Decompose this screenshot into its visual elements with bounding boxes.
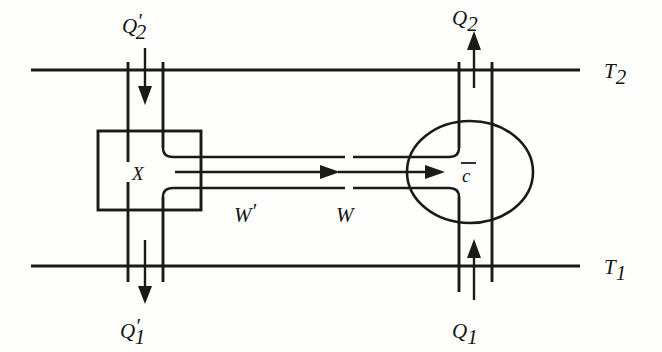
label-work-prime: W′ xyxy=(234,199,257,227)
label-t1-subscript: 1 xyxy=(616,261,627,285)
heat-arrow-q2-prime xyxy=(138,48,152,105)
diagram-canvas: T2 T1 Q′2 Q′1 Q2 xyxy=(0,0,662,352)
left-elbow-upper xyxy=(163,148,345,157)
svg-text:W′: W′ xyxy=(234,199,257,227)
svg-text:T2: T2 xyxy=(604,59,627,89)
label-q1-prime: Q′1 xyxy=(120,314,145,349)
label-device-x: X xyxy=(131,163,145,184)
heat-arrow-q2 xyxy=(467,31,481,88)
label-work-prime-mark: ′ xyxy=(252,199,257,223)
heat-arrow-q1-prime xyxy=(138,240,152,304)
svg-text:Q′1: Q′1 xyxy=(120,314,145,349)
label-q1-prime-subscript: 1 xyxy=(135,325,146,349)
label-q2-subscript: 2 xyxy=(467,12,478,36)
label-q2-letter: Q xyxy=(452,6,467,30)
label-t1: T1 xyxy=(604,255,626,285)
label-q1-subscript: 1 xyxy=(467,325,478,349)
label-device-cbar-text: c xyxy=(462,165,471,186)
label-work: W xyxy=(336,203,356,227)
label-q1: Q1 xyxy=(452,319,478,349)
left-elbow-lower xyxy=(163,188,345,197)
device-x-box xyxy=(98,131,201,210)
right-elbow-lower xyxy=(353,188,459,197)
label-q2-prime-subscript: 2 xyxy=(136,20,147,44)
label-t2-subscript: 2 xyxy=(616,65,627,89)
label-q1-letter: Q xyxy=(452,319,467,343)
label-q2-prime: Q′2 xyxy=(122,9,147,44)
right-elbow-upper xyxy=(353,148,459,157)
label-q2: Q2 xyxy=(452,6,478,36)
thermodynamic-schematic: T2 T1 Q′2 Q′1 Q2 xyxy=(0,0,662,352)
label-work-letter: W xyxy=(336,203,356,227)
svg-text:Q2: Q2 xyxy=(452,6,478,36)
svg-text:Q1: Q1 xyxy=(452,319,478,349)
work-arrow xyxy=(338,165,445,179)
svg-text:Q′2: Q′2 xyxy=(122,9,147,44)
label-device-cbar: c xyxy=(461,163,476,186)
label-q1-prime-letter: Q xyxy=(120,319,135,343)
svg-text:T1: T1 xyxy=(604,255,626,285)
label-t2: T2 xyxy=(604,59,627,89)
heat-arrow-q1 xyxy=(467,239,481,300)
label-device-x-text: X xyxy=(131,163,145,184)
